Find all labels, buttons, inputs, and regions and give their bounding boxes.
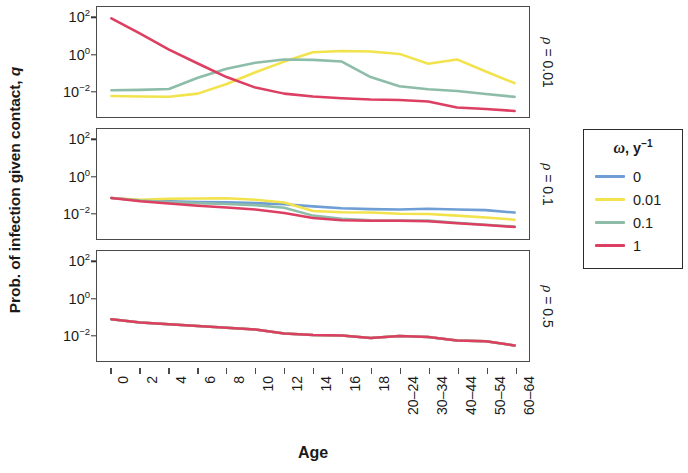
x-tick-label: 14 xyxy=(318,376,334,392)
x-tick-mark xyxy=(226,368,227,374)
y-tick-label: 10−2 xyxy=(63,84,90,100)
legend-item-0[interactable]: 0 xyxy=(584,165,682,188)
y-tick-label: 102 xyxy=(69,131,90,147)
x-tick-mark xyxy=(371,368,372,374)
plot-area-1[interactable] xyxy=(96,128,530,240)
x-tick-label: 20–24 xyxy=(405,376,421,415)
legend-title-exponent: −1 xyxy=(641,138,652,149)
facet-strip-label-0: ρ = 0.01 xyxy=(534,6,560,118)
x-tick-label: 30–34 xyxy=(434,376,450,415)
x-tick-mark xyxy=(487,368,488,374)
y-axis-title-text: Prob. of infection given contact, xyxy=(6,76,23,313)
legend-item-label: 0.1 xyxy=(633,215,653,231)
x-axis-title: Age xyxy=(96,444,530,462)
y-tick-label: 102 xyxy=(69,253,90,269)
legend-item-label: 1 xyxy=(633,238,641,254)
x-tick-mark xyxy=(168,368,169,374)
y-tick-label: 100 xyxy=(69,291,90,307)
y-axis-title-symbol: q xyxy=(6,67,23,76)
legend-item-label: 0 xyxy=(633,169,641,185)
x-tick-mark xyxy=(284,368,285,374)
x-tick-label: 10 xyxy=(260,376,276,392)
x-tick-label: 2 xyxy=(144,376,160,384)
x-tick-mark xyxy=(458,368,459,374)
facet-panel-0: 10210010−2ρ = 0.01 xyxy=(34,6,530,118)
x-tick-mark xyxy=(400,368,401,374)
x-tick-label: 16 xyxy=(347,376,363,392)
plot-area-0[interactable] xyxy=(96,6,530,118)
x-tick-label: 4 xyxy=(173,376,189,384)
plot-area-2[interactable] xyxy=(96,250,530,362)
facet-strip-label-1: ρ = 0.1 xyxy=(534,128,560,240)
legend-entries: 00.010.11 xyxy=(584,165,682,257)
y-axis-ticks-2: 10210010−2 xyxy=(34,250,96,362)
x-tick-label: 6 xyxy=(202,376,218,384)
legend-color-swatch xyxy=(595,221,625,224)
facet-panel-2: 10210010−2ρ = 0.5 xyxy=(34,250,530,362)
x-tick-mark xyxy=(197,368,198,374)
x-tick-mark xyxy=(342,368,343,374)
x-tick-mark xyxy=(110,368,111,374)
x-tick-label: 60–64 xyxy=(521,376,537,415)
y-axis-title: Prob. of infection given contact, q xyxy=(0,0,30,380)
facet-grid: 10210010−2ρ = 0.0110210010−2ρ = 0.110210… xyxy=(34,6,530,368)
legend-title-symbol: ω xyxy=(613,139,625,156)
x-tick-mark xyxy=(313,368,314,374)
x-tick-label: 50–54 xyxy=(492,376,508,415)
y-axis-ticks-0: 10210010−2 xyxy=(34,6,96,118)
series-line-1 xyxy=(111,319,514,345)
legend-title: ω, y−1 xyxy=(584,139,682,157)
legend-item-label: 0.01 xyxy=(633,192,661,208)
legend-item-1[interactable]: 1 xyxy=(584,234,682,257)
x-tick-label: 18 xyxy=(376,376,392,392)
legend-color-swatch xyxy=(595,175,625,178)
y-axis-ticks-1: 10210010−2 xyxy=(34,128,96,240)
legend-item-0.1[interactable]: 0.1 xyxy=(584,211,682,234)
y-tick-label: 102 xyxy=(69,9,90,25)
y-tick-label: 100 xyxy=(69,47,90,63)
x-tick-label: 8 xyxy=(231,376,247,384)
x-tick-label: 12 xyxy=(289,376,305,392)
y-tick-label: 100 xyxy=(69,169,90,185)
y-tick-label: 10−2 xyxy=(63,206,90,222)
x-tick-mark xyxy=(516,368,517,374)
x-tick-mark xyxy=(255,368,256,374)
x-tick-label: 40–44 xyxy=(463,376,479,415)
legend-item-0.01[interactable]: 0.01 xyxy=(584,188,682,211)
legend-color-swatch xyxy=(595,198,625,201)
x-tick-mark xyxy=(139,368,140,374)
facet-panel-1: 10210010−2ρ = 0.1 xyxy=(34,128,530,240)
legend-color-swatch xyxy=(595,244,625,247)
x-tick-label: 0 xyxy=(115,376,131,384)
series-line-0.1 xyxy=(111,59,514,96)
legend-title-rest: , y xyxy=(625,140,641,156)
facet-strip-label-2: ρ = 0.5 xyxy=(534,250,560,362)
x-tick-mark xyxy=(429,368,430,374)
y-tick-label: 10−2 xyxy=(63,328,90,344)
legend: ω, y−1 00.010.11 xyxy=(583,129,683,269)
